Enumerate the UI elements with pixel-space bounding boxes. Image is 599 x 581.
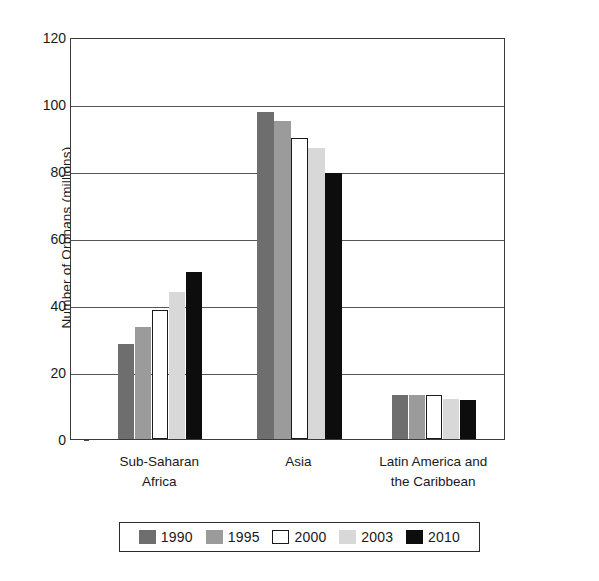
legend-label: 2003 <box>361 529 393 545</box>
x-axis-category-label-line: Africa <box>69 472 249 492</box>
bar-chart: Number of Orphans (millions) 12010080604… <box>0 0 599 581</box>
bar <box>274 121 291 439</box>
legend-item: 2000 <box>272 529 326 545</box>
y-axis-tick-label: 100 <box>24 98 66 112</box>
bar <box>460 400 477 439</box>
legend-swatch <box>406 530 423 544</box>
y-axis-tick-mark <box>84 440 89 441</box>
y-axis-tick-label: 120 <box>24 31 66 45</box>
y-axis-tick-label: 20 <box>24 366 66 380</box>
x-axis-category-label-line: the Caribbean <box>343 472 523 492</box>
bar <box>257 112 274 439</box>
bar <box>118 344 135 439</box>
legend-item: 1995 <box>206 529 260 545</box>
legend-label: 2010 <box>428 529 460 545</box>
legend: 19901995200020032010 <box>119 522 480 552</box>
bar <box>443 399 460 439</box>
bar <box>135 327 152 439</box>
bar <box>169 292 186 439</box>
x-axis-category-label: Latin America andthe Caribbean <box>343 452 523 491</box>
legend-label: 1995 <box>228 529 260 545</box>
legend-swatch <box>339 530 356 544</box>
bar <box>409 395 426 439</box>
legend-item: 2010 <box>406 529 460 545</box>
bar <box>325 173 342 439</box>
y-axis-tick-label: 40 <box>24 299 66 313</box>
bars-layer <box>71 39 504 439</box>
y-axis-tick-label: 0 <box>24 433 66 447</box>
bar <box>426 395 443 439</box>
y-axis-tick-label: 60 <box>24 232 66 246</box>
legend-swatch <box>139 530 156 544</box>
legend-swatch <box>206 530 223 544</box>
x-axis-category-label-line: Latin America and <box>343 452 523 472</box>
bar <box>186 272 203 440</box>
bar <box>308 148 325 439</box>
legend-label: 2000 <box>294 529 326 545</box>
y-axis-tick-label: 80 <box>24 165 66 179</box>
legend-swatch <box>272 530 289 544</box>
y-axis-tick-labels: 120100806040200 <box>18 0 66 460</box>
bar <box>152 310 169 439</box>
bar <box>291 138 308 440</box>
legend-label: 1990 <box>161 529 193 545</box>
legend-item: 1990 <box>139 529 193 545</box>
bar <box>392 395 409 439</box>
plot-area <box>70 38 505 440</box>
legend-item: 2003 <box>339 529 393 545</box>
